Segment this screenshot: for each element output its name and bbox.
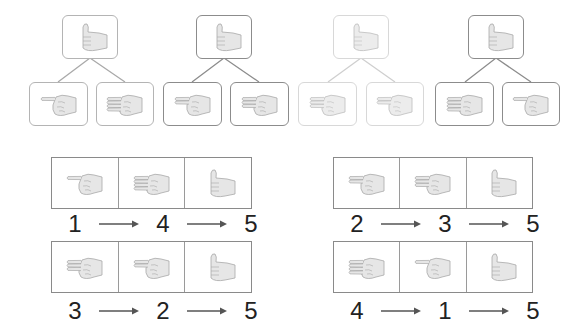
thumbs-up-icon: [478, 167, 520, 199]
tree2-top-box: [196, 15, 252, 59]
sequence-cell: [466, 158, 532, 208]
sequence-labels-1: 1 4 5: [64, 210, 262, 238]
arrow-right-icon: [96, 306, 142, 316]
arrow-right-icon: [378, 306, 424, 316]
arrow-right-icon: [378, 219, 424, 229]
tree1-left-box: [29, 82, 88, 126]
arrow-right-icon: [184, 306, 230, 316]
sequence-cell: [399, 242, 465, 292]
sequence-cell: [184, 242, 251, 292]
tree2-right-box: [230, 82, 289, 126]
tree3-right-box: [366, 82, 424, 126]
sequence-cell: [52, 158, 118, 208]
sequence-number: 3: [64, 297, 86, 325]
hand-one-finger-icon: [38, 88, 80, 120]
hand-one-finger-icon: [64, 167, 106, 199]
hand-two-fingers-icon: [346, 167, 388, 199]
thumbs-up-icon: [478, 251, 520, 283]
sequence-labels-2: 2 3 5: [346, 210, 544, 238]
sequence-number: 1: [434, 297, 456, 325]
sequence-table-3: [51, 241, 252, 293]
sequence-table-4: [333, 241, 533, 293]
sequence-cell: [118, 158, 185, 208]
arrow-right-icon: [466, 219, 512, 229]
hand-three-fingers-icon: [307, 88, 349, 120]
sequence-number: 3: [434, 210, 456, 238]
thumbs-up-icon: [197, 251, 239, 283]
tree3-top-box: [333, 15, 389, 59]
sequence-number: 2: [152, 297, 174, 325]
hand-four-fingers-icon: [131, 167, 173, 199]
thumbs-up-icon: [69, 21, 111, 53]
sequence-labels-3: 3 2 5: [64, 297, 262, 325]
sequence-number: 4: [152, 210, 174, 238]
hand-two-fingers-icon: [131, 251, 173, 283]
sequence-cell: [52, 242, 118, 292]
sequence-number: 4: [346, 297, 368, 325]
sequence-cell: [334, 242, 399, 292]
tree4-left-box: [435, 82, 494, 126]
tree1-right-box: [96, 82, 154, 126]
thumbs-up-icon: [197, 167, 239, 199]
arrow-right-icon: [184, 219, 230, 229]
arrow-right-icon: [96, 219, 142, 229]
sequence-table-2: [333, 157, 533, 209]
hand-two-fingers-icon: [172, 88, 214, 120]
sequence-labels-4: 4 1 5: [346, 297, 544, 325]
hand-three-fingers-icon: [64, 251, 106, 283]
sequence-number: 5: [240, 210, 262, 238]
tree4-right-box: [502, 82, 560, 126]
tree1-top-box: [62, 15, 118, 59]
sequence-number: 5: [240, 297, 262, 325]
hand-four-fingers-icon: [104, 88, 146, 120]
tree3-left-box: [298, 82, 357, 126]
hand-three-fingers-icon: [412, 167, 454, 199]
sequence-table-1: [51, 157, 252, 209]
sequence-cell: [334, 158, 399, 208]
tree2-left-box: [163, 82, 222, 126]
thumbs-up-icon: [475, 21, 517, 53]
sequence-number: 5: [522, 210, 544, 238]
sequence-number: 2: [346, 210, 368, 238]
sequence-number: 1: [64, 210, 86, 238]
hand-two-fingers-icon: [374, 88, 416, 120]
hand-one-finger-icon: [510, 88, 552, 120]
hand-three-fingers-icon: [239, 88, 281, 120]
thumbs-up-icon: [340, 21, 382, 53]
tree4-top-box: [468, 15, 524, 59]
sequence-cell: [118, 242, 185, 292]
sequence-number: 5: [522, 297, 544, 325]
hand-four-fingers-icon: [346, 251, 388, 283]
hand-one-finger-icon: [412, 251, 454, 283]
thumbs-up-icon: [203, 21, 245, 53]
sequence-cell: [466, 242, 532, 292]
arrow-right-icon: [466, 306, 512, 316]
sequence-cell: [184, 158, 251, 208]
sequence-cell: [399, 158, 465, 208]
hand-four-fingers-icon: [444, 88, 486, 120]
